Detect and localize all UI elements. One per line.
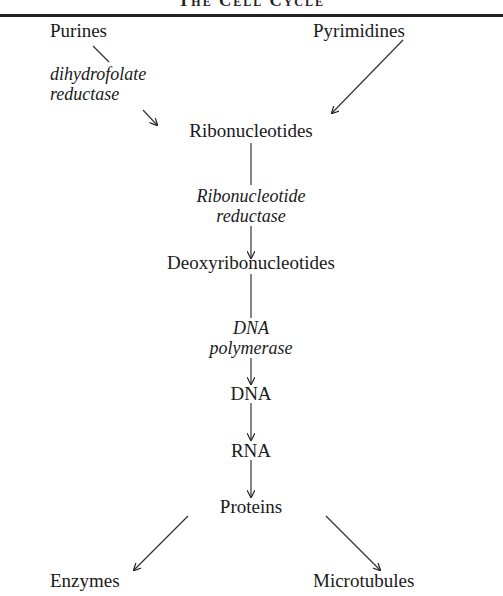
enzyme-rnr-line2: reductase xyxy=(151,206,351,226)
enzyme-dhfr-line2: reductase xyxy=(50,84,119,104)
node-rna: RNA xyxy=(151,440,351,462)
node-purines: Purines xyxy=(50,20,107,42)
node-enzymes: Enzymes xyxy=(50,570,120,592)
node-dna: DNA xyxy=(151,383,351,405)
node-microtubules: Microtubules xyxy=(313,570,414,592)
enzyme-rnr-line1: Ribonucleotide xyxy=(151,186,351,206)
enzyme-dhfr-line1: dihydrofolate xyxy=(50,64,146,84)
proteins-to-enzymes-arrow xyxy=(134,516,188,570)
node-pyrimidines: Pyrimidines xyxy=(313,20,405,42)
proteins-to-microtubules-arrow xyxy=(326,516,380,570)
enzyme-pol-line2: polymerase xyxy=(151,338,351,358)
node-proteins: Proteins xyxy=(151,496,351,518)
enzyme-pol-line1: DNA xyxy=(151,318,351,338)
node-ribonucleotides: Ribonucleotides xyxy=(151,120,351,142)
purines-connector-line xyxy=(93,46,109,62)
pyrimidines-arrow xyxy=(332,40,403,113)
node-deoxyribonucleotides: Deoxyribonucleotides xyxy=(131,252,371,274)
